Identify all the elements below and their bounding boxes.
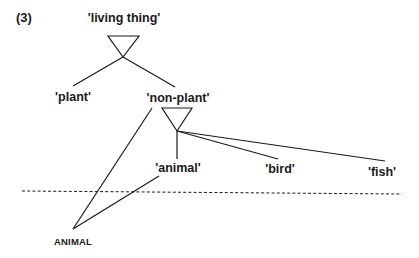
edge-living-thing-non-plant xyxy=(123,57,175,87)
figure-number: (3) xyxy=(16,11,32,24)
edge-non-plant-fish xyxy=(177,131,385,161)
non-plant-triangle-icon xyxy=(162,108,192,131)
node-animal-word: ANIMAL xyxy=(54,237,92,247)
node-plant: 'plant' xyxy=(55,91,91,104)
node-animal-concept: 'animal' xyxy=(155,162,201,175)
living-thing-triangle-icon xyxy=(108,36,139,57)
node-living-thing: 'living thing' xyxy=(88,12,161,25)
edge-non-plant-bird xyxy=(177,131,278,159)
level-divider-dashed-line xyxy=(22,191,402,194)
node-fish: 'fish' xyxy=(368,166,396,179)
edge-animal-word-non-plant xyxy=(73,108,152,229)
edge-living-thing-plant xyxy=(73,57,123,86)
edge-animal-word-animal xyxy=(73,176,159,229)
node-bird: 'bird' xyxy=(265,163,295,176)
node-non-plant: 'non-plant' xyxy=(147,92,210,105)
diagram-lines xyxy=(0,0,419,258)
semantic-network-diagram: (3) 'living thing' 'plant' 'non-plant' '… xyxy=(0,0,419,258)
